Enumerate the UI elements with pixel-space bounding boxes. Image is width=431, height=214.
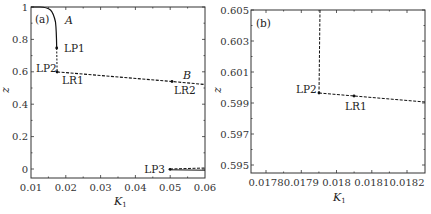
panel-b-ylabel: z bbox=[211, 87, 224, 94]
panel-b-xticks bbox=[266, 10, 407, 173]
panel-b-point-LR1 bbox=[353, 95, 356, 98]
panel-b-ytick-0.599: 0.599 bbox=[220, 98, 249, 109]
panel-b-branch-B-dashed bbox=[319, 93, 425, 102]
panel-b-ytick-0.595: 0.595 bbox=[220, 160, 249, 171]
panel-a-xticks bbox=[48, 7, 187, 178]
panel-b-xlabel: K1 bbox=[332, 191, 346, 205]
panel-a-label-LP2: LP2 bbox=[36, 62, 57, 74]
panel-b-tag: (b) bbox=[256, 17, 271, 29]
panel-a-ytick-1: 1 bbox=[22, 2, 28, 13]
figure: 1 0.8 0.6 0.4 0.2 0 0.01 0.02 0.03 0.04 … bbox=[0, 0, 431, 214]
panel-a-label-LP3: LP3 bbox=[144, 163, 165, 175]
panel-a-xtick-0.02: 0.02 bbox=[55, 182, 77, 193]
panel-a-xtick-0.05: 0.05 bbox=[159, 182, 181, 193]
panel-a-xtick-0.03: 0.03 bbox=[89, 182, 111, 193]
panel-b-xtick-0.018: 0.018 bbox=[322, 177, 351, 188]
panel-a-xtick-0.01: 0.01 bbox=[20, 182, 42, 193]
panel-a-ytick-0.4: 0.4 bbox=[12, 99, 28, 110]
panel-a-xtick-0.04: 0.04 bbox=[124, 182, 146, 193]
panel-b-point-LP2 bbox=[318, 92, 321, 95]
panel-b-label-LR1: LR1 bbox=[345, 100, 367, 112]
panel-b-frame bbox=[251, 10, 425, 173]
panel-b: 0.605 0.603 0.601 0.599 0.597 0.595 0.01… bbox=[211, 5, 425, 206]
panel-b-ytick-0.601: 0.601 bbox=[220, 67, 249, 78]
panel-b-yticks bbox=[251, 10, 425, 165]
panel-a-point-LR2 bbox=[171, 80, 174, 83]
panel-a-ytick-0.6: 0.6 bbox=[12, 66, 28, 77]
panel-a-label-LR2: LR2 bbox=[174, 84, 196, 96]
panel-a: 1 0.8 0.6 0.4 0.2 0 0.01 0.02 0.03 0.04 … bbox=[0, 2, 216, 210]
panel-a-point-LP3 bbox=[169, 168, 172, 171]
panel-b-xtick-0.0181: 0.0181 bbox=[354, 177, 389, 188]
panel-a-tag: (a) bbox=[35, 13, 49, 25]
panel-a-ylabel: z bbox=[0, 87, 12, 94]
panel-a-point-LP1 bbox=[55, 47, 58, 50]
panel-a-ytick-0.8: 0.8 bbox=[12, 34, 28, 45]
panel-b-xtick-0.0182: 0.0182 bbox=[390, 177, 425, 188]
panel-a-label-LR1: LR1 bbox=[62, 74, 84, 86]
panel-a-ytick-0: 0 bbox=[22, 164, 28, 175]
panel-b-label-LP2: LP2 bbox=[296, 83, 317, 95]
panel-a-label-A: A bbox=[64, 14, 73, 27]
panel-a-xlabel: K1 bbox=[113, 195, 127, 209]
panel-a-xtick-0.06: 0.06 bbox=[194, 182, 216, 193]
panel-a-label-B: B bbox=[182, 69, 191, 82]
panel-a-branch-low-dashed-1 bbox=[170, 168, 205, 169]
panel-b-xtick-0.0179: 0.0179 bbox=[284, 177, 319, 188]
panel-b-ytick-0.597: 0.597 bbox=[220, 129, 249, 140]
panel-b-ytick-0.605: 0.605 bbox=[220, 5, 249, 16]
panel-b-branch-vertical-dashed bbox=[319, 10, 320, 93]
panel-a-ytick-0.2: 0.2 bbox=[12, 131, 28, 142]
panel-b-ytick-0.603: 0.603 bbox=[220, 36, 249, 47]
panel-b-xtick-0.0178: 0.0178 bbox=[249, 177, 284, 188]
panel-a-label-LP1: LP1 bbox=[64, 42, 85, 54]
